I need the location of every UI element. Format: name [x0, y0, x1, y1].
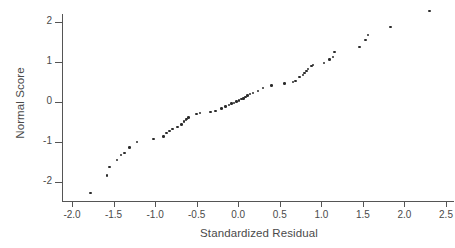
data-point: [123, 152, 126, 155]
y-tick-mark: [55, 102, 62, 103]
x-tick-label: 1.5: [343, 209, 383, 220]
x-tick-mark: [197, 201, 198, 207]
data-point: [185, 118, 188, 121]
data-point: [252, 92, 255, 95]
x-tick-label: -1.0: [135, 209, 175, 220]
data-point: [358, 46, 361, 49]
data-point: [292, 81, 295, 84]
x-tick-label: 2.0: [384, 209, 424, 220]
data-point: [120, 154, 123, 157]
data-point: [244, 96, 247, 99]
data-point: [240, 98, 243, 101]
data-point: [165, 132, 168, 135]
x-tick-label: 2.5: [426, 209, 455, 220]
data-point: [185, 119, 188, 122]
data-point: [364, 39, 367, 42]
data-point: [128, 146, 131, 149]
y-tick-mark: [55, 142, 62, 143]
y-tick-label: 0: [46, 95, 52, 106]
x-axis-line: [62, 201, 454, 202]
y-tick-label: 1: [46, 55, 52, 66]
x-tick-mark: [321, 201, 322, 207]
data-point: [238, 99, 241, 102]
data-point: [168, 130, 171, 133]
x-axis-label: Standardized Residual: [72, 227, 446, 239]
data-point: [233, 102, 236, 105]
y-axis-label: Normal Score: [14, 0, 32, 208]
data-point: [136, 141, 139, 144]
x-tick-mark: [280, 201, 281, 207]
data-point: [242, 97, 245, 100]
data-point: [367, 34, 370, 37]
x-tick-label: 0.5: [260, 209, 300, 220]
data-point: [389, 26, 392, 29]
data-point: [209, 111, 212, 114]
data-point: [283, 82, 286, 85]
y-tick-label: -2: [43, 175, 52, 186]
x-tick-mark: [404, 201, 405, 207]
data-point: [333, 51, 336, 54]
x-tick-mark: [446, 201, 447, 207]
data-point: [302, 74, 305, 77]
y-axis-line: [62, 14, 63, 202]
x-tick-mark: [72, 201, 73, 207]
data-point: [310, 65, 313, 68]
y-tick-label: 2: [46, 15, 52, 26]
data-point: [312, 64, 315, 67]
data-point: [428, 10, 431, 13]
x-tick-mark: [155, 201, 156, 207]
y-tick-mark: [55, 182, 62, 183]
data-point: [195, 113, 198, 116]
y-tick-mark: [55, 22, 62, 23]
data-point: [328, 58, 331, 61]
data-point: [307, 68, 310, 71]
y-tick-mark: [55, 62, 62, 63]
x-tick-label: 0.0: [218, 209, 258, 220]
data-point: [116, 159, 119, 162]
data-point: [298, 76, 301, 79]
data-point: [214, 110, 217, 113]
data-point: [176, 126, 179, 129]
x-tick-label: -0.5: [177, 209, 217, 220]
data-point: [270, 84, 273, 87]
data-point: [89, 192, 92, 195]
qq-plot-figure: -2-1012 -2.0-1.5-1.0-0.50.00.51.01.52.02…: [0, 0, 455, 248]
data-point: [305, 70, 308, 73]
x-tick-mark: [238, 201, 239, 207]
data-point: [257, 90, 260, 93]
y-tick-label: -1: [43, 135, 52, 146]
data-point: [323, 62, 326, 65]
x-tick-label: -2.0: [52, 209, 92, 220]
data-point: [108, 166, 111, 169]
data-point: [228, 104, 231, 107]
data-point: [180, 123, 183, 126]
x-tick-mark: [363, 201, 364, 207]
data-point: [303, 72, 306, 75]
data-point: [199, 112, 202, 115]
data-point: [220, 107, 223, 110]
data-point: [183, 120, 186, 123]
data-point: [171, 128, 174, 131]
data-point: [224, 105, 227, 108]
data-point: [332, 56, 335, 59]
data-point: [262, 87, 265, 90]
data-point: [235, 100, 238, 103]
data-point: [294, 80, 297, 83]
x-tick-mark: [114, 201, 115, 207]
data-point: [230, 102, 233, 105]
data-point: [187, 116, 190, 119]
data-point: [106, 174, 109, 177]
data-point: [249, 93, 252, 96]
data-point: [152, 138, 155, 141]
x-tick-label: -1.5: [94, 209, 134, 220]
data-point: [246, 94, 249, 97]
data-point: [162, 135, 165, 138]
x-tick-label: 1.0: [301, 209, 341, 220]
